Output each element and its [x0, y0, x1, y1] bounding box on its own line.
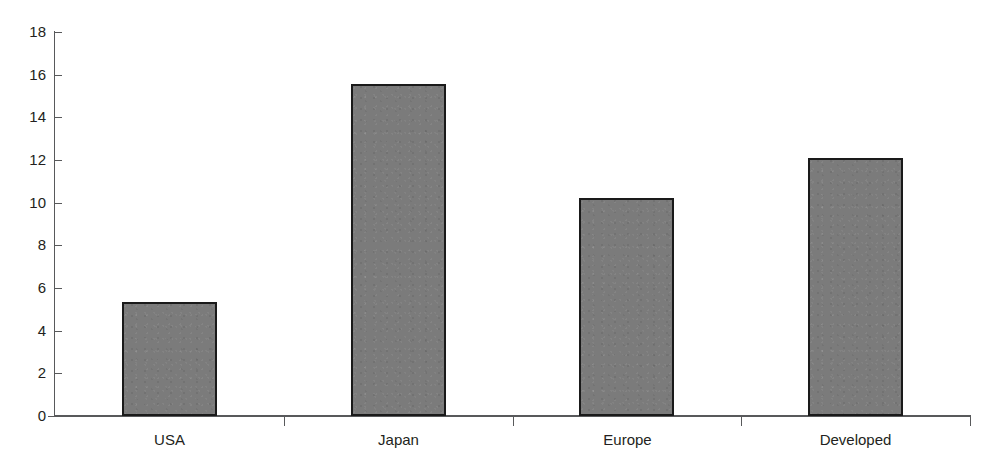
- category-label-developed: Developed: [741, 432, 970, 449]
- bar-usa: [122, 302, 217, 416]
- x-tick-mark: [284, 417, 285, 426]
- y-tick-mark: [48, 416, 62, 417]
- bar-japan: [351, 84, 446, 416]
- y-tick-label: 18: [0, 24, 46, 39]
- category-label-europe: Europe: [513, 432, 742, 449]
- category-label-usa: USA: [55, 432, 284, 449]
- x-tick-mark: [970, 417, 971, 426]
- y-tick-label: 10: [0, 195, 46, 210]
- y-tick-label: 8: [0, 237, 46, 252]
- y-tick-label: 0: [0, 408, 46, 423]
- y-tick-label: 14: [0, 109, 46, 124]
- plot-area: [55, 32, 970, 416]
- bar-developed: [808, 158, 903, 416]
- y-tick-label: 4: [0, 323, 46, 338]
- y-tick-label: 2: [0, 365, 46, 380]
- bar-chart-figure: 024681012141618 USAJapanEuropeDeveloped: [0, 0, 1000, 474]
- x-tick-mark: [741, 417, 742, 426]
- category-label-japan: Japan: [284, 432, 513, 449]
- x-tick-mark: [513, 417, 514, 426]
- y-tick-label: 6: [0, 280, 46, 295]
- y-tick-label: 12: [0, 152, 46, 167]
- bar-europe: [579, 198, 674, 416]
- y-tick-label: 16: [0, 67, 46, 82]
